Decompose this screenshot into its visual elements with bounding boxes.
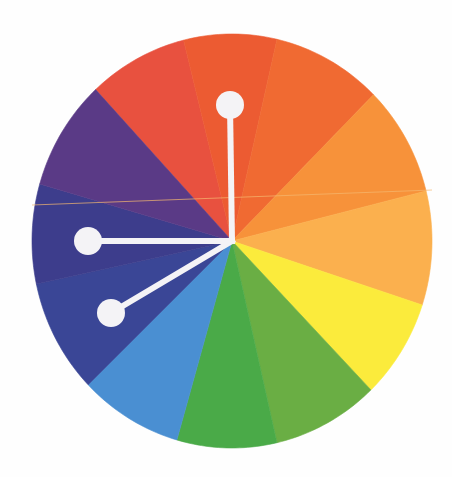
pointer-knob-icon xyxy=(216,91,244,119)
pointer-arm xyxy=(230,105,232,241)
color-wheel xyxy=(0,0,452,477)
pointer-knob-icon xyxy=(74,227,102,255)
pointer-knob-icon xyxy=(97,299,125,327)
color-wheel-diagram: Split-complementary color wheel xyxy=(0,0,452,477)
